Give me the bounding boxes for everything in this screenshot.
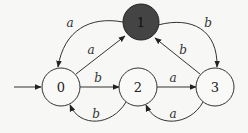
edge-label-1-3: b	[204, 16, 212, 30]
state-3: 3	[196, 68, 234, 106]
edge-3-to-1	[155, 38, 200, 74]
edge-label-2-0: b	[92, 107, 100, 121]
state-1-accepting: 1	[123, 4, 159, 40]
edge-label-2-3: a	[169, 71, 176, 85]
edge-label-0-2: b	[94, 71, 102, 85]
edge-label-3-1: b	[179, 43, 187, 57]
state-2-label: 2	[134, 80, 142, 95]
state-0: 0	[42, 68, 80, 106]
state-1-label: 1	[137, 15, 145, 30]
state-0-label: 0	[57, 80, 65, 95]
state-2: 2	[119, 68, 157, 106]
edge-label-3-2: a	[169, 107, 176, 121]
edge-0-to-1	[76, 36, 125, 74]
automaton-diagram: a a b b b b a a 0 1 2 3	[0, 0, 248, 133]
edge-label-0-1: a	[87, 43, 94, 57]
state-3-label: 3	[211, 80, 219, 95]
edge-label-1-0: a	[66, 16, 73, 30]
